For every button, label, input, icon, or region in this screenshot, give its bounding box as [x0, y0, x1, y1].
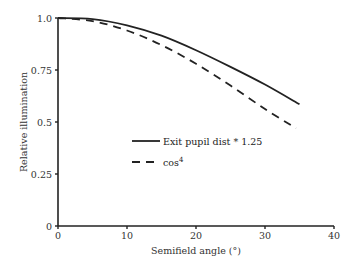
- y-axis-title: Relative illumination: [18, 72, 29, 172]
- y-tick-label: 0.25: [31, 169, 52, 180]
- x-axis-title: Semifield angle (°): [151, 245, 241, 256]
- line-chart: 010203040 00.250.50.751.0 Semifield angl…: [0, 0, 358, 269]
- axes: [58, 18, 334, 226]
- y-tick-label: 1.0: [37, 13, 52, 24]
- y-tick-label: 0.75: [31, 65, 52, 76]
- x-tick-label: 30: [259, 230, 271, 241]
- x-tick-label: 20: [190, 230, 202, 241]
- series-cos4-line: [58, 18, 296, 128]
- legend: Exit pupil dist * 1.25 cos4: [132, 136, 262, 168]
- legend-label-cos4: cos4: [163, 156, 184, 168]
- y-tick-label: 0: [46, 221, 52, 232]
- x-tick-label: 0: [55, 230, 61, 241]
- series-exit-pupil-line: [58, 18, 300, 104]
- legend-label-exit-pupil: Exit pupil dist * 1.25: [163, 136, 262, 147]
- plot-lines: [58, 18, 300, 128]
- x-tick-label: 40: [328, 230, 340, 241]
- y-ticks: 00.250.50.751.0: [31, 13, 58, 232]
- y-tick-label: 0.5: [37, 117, 52, 128]
- x-ticks: 010203040: [55, 226, 340, 241]
- x-tick-label: 10: [121, 230, 133, 241]
